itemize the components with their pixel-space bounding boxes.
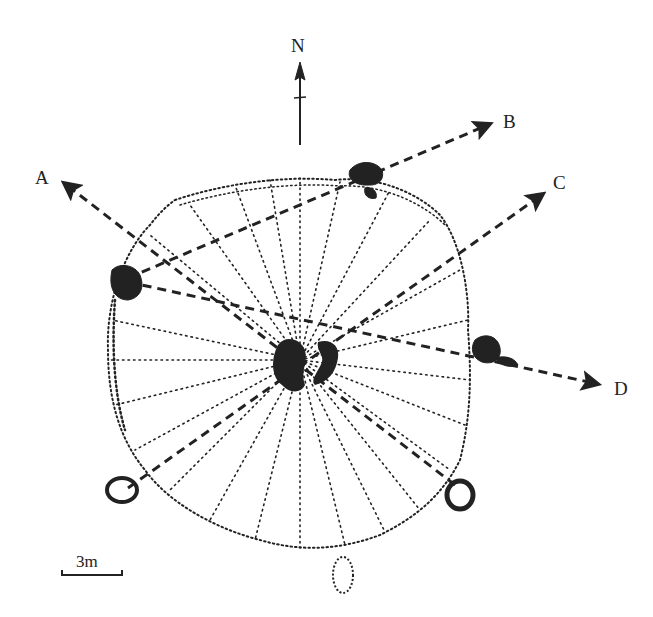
post-hole-southeast (447, 481, 473, 509)
transect-A-line (64, 183, 455, 485)
transect-lines (64, 124, 598, 488)
post-hole-west (111, 265, 142, 300)
transect-D-line (128, 282, 598, 384)
site-plan-diagram (0, 0, 653, 617)
scale-bar-label: 3m (76, 553, 98, 570)
transect-label-A: A (35, 168, 49, 187)
north-arrow-icon (294, 62, 306, 145)
post-hole-south (333, 557, 353, 593)
transect-label-C: C (553, 173, 566, 192)
post-hole-southwest (107, 478, 137, 502)
north-label: N (291, 36, 305, 55)
transect-label-D: D (614, 379, 628, 398)
transect-B-line (128, 124, 490, 278)
transect-label-B: B (503, 112, 516, 131)
post-holes (107, 163, 518, 594)
